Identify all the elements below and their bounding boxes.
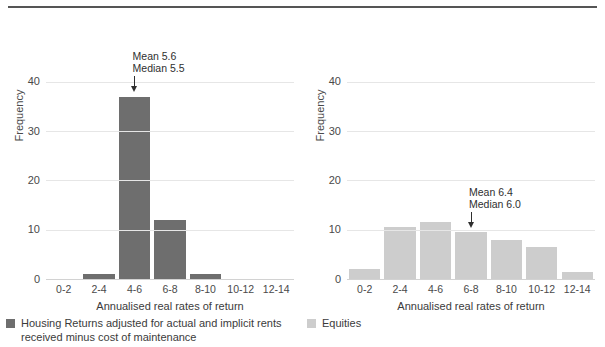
plot-area-left (46, 58, 294, 279)
y-tick-right-30: 30 (317, 126, 341, 137)
legend-label-equities: Equities (322, 316, 361, 330)
x-tick-left-12-14: 12-14 (259, 284, 294, 295)
annotation-right-mean: Mean 6.4 (469, 186, 521, 198)
annotation-left-mean: Mean 5.6 (133, 50, 185, 62)
annotation-right: Mean 6.4 Median 6.0 (469, 186, 521, 210)
x-tick-right-0-2: 0-2 (347, 284, 382, 295)
y-tick-left-10: 10 (16, 224, 40, 235)
gridline-right-10 (347, 230, 595, 231)
gridline-left-40 (46, 82, 294, 83)
x-axis-line-right (347, 279, 595, 280)
gridline-right-20 (347, 180, 595, 181)
legend-swatch-equities (307, 319, 316, 328)
bar-right-8-10 (491, 240, 522, 280)
bar-right-4-6 (420, 222, 451, 279)
x-tick-right-8-10: 8-10 (489, 284, 524, 295)
x-tick-right-12-14: 12-14 (560, 284, 595, 295)
y-tick-right-40: 40 (317, 76, 341, 87)
gridline-left-20 (46, 180, 294, 181)
y-axis-label-right: Frequency (315, 56, 326, 176)
y-tick-right-0: 0 (317, 274, 341, 285)
bars-left (46, 58, 294, 279)
x-axis-line-left (46, 279, 294, 280)
gridline-left-30 (46, 131, 294, 132)
x-tick-left-10-12: 10-12 (223, 284, 258, 295)
y-tick-left-30: 30 (16, 126, 40, 137)
y-tick-left-40: 40 (16, 76, 40, 87)
gridline-right-30 (347, 131, 595, 132)
bar-right-2-4 (384, 227, 415, 279)
figure-top-rule (8, 6, 597, 8)
x-tick-right-6-8: 6-8 (453, 284, 488, 295)
plot-area-right (347, 58, 595, 279)
bars-right (347, 58, 595, 279)
y-tick-left-0: 0 (16, 274, 40, 285)
annotation-left-median: Median 5.5 (133, 62, 185, 74)
x-axis-label-right: Annualised real rates of return (347, 300, 595, 312)
gridline-left-10 (46, 230, 294, 231)
bar-left-6-8 (154, 220, 185, 279)
bar-right-10-12 (526, 247, 557, 279)
annotation-right-median: Median 6.0 (469, 198, 521, 210)
chart-panel-housing: Frequency Annualised real rates of retur… (2, 14, 302, 299)
legend-label-housing: Housing Returns adjusted for actual and … (21, 316, 281, 344)
x-tick-right-2-4: 2-4 (382, 284, 417, 295)
bar-right-0-2 (349, 269, 380, 279)
y-tick-left-20: 20 (16, 175, 40, 186)
bar-right-12-14 (562, 272, 593, 279)
annotation-arrow-left (130, 76, 139, 92)
x-tick-left-2-4: 2-4 (81, 284, 116, 295)
y-tick-right-20: 20 (317, 175, 341, 186)
x-tick-left-0-2: 0-2 (46, 284, 81, 295)
bar-left-4-6 (119, 97, 150, 280)
annotation-left: Mean 5.6 Median 5.5 (133, 50, 185, 74)
x-tick-right-4-6: 4-6 (418, 284, 453, 295)
gridline-right-40 (347, 82, 595, 83)
x-tick-left-4-6: 4-6 (117, 284, 152, 295)
figure-caption-cropped (8, 0, 597, 5)
y-tick-right-10: 10 (317, 224, 341, 235)
annotation-arrow-right (467, 212, 476, 228)
x-axis-label-left: Annualised real rates of return (46, 300, 294, 312)
legend-swatch-housing (6, 319, 15, 328)
x-tick-left-8-10: 8-10 (188, 284, 223, 295)
x-tick-right-10-12: 10-12 (524, 284, 559, 295)
x-tick-left-6-8: 6-8 (152, 284, 187, 295)
y-axis-label-left: Frequency (14, 56, 25, 176)
arrow-head-right (468, 222, 474, 228)
arrow-head-left (131, 86, 137, 92)
bar-right-6-8 (455, 232, 486, 279)
chart-panel-equities: Frequency Annualised real rates of retur… (303, 14, 603, 299)
